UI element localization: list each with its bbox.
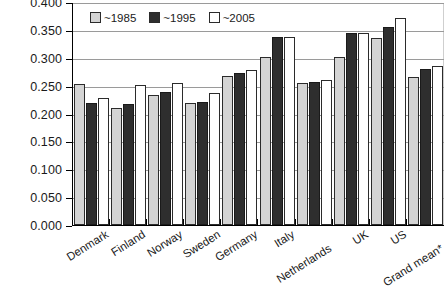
bar bbox=[222, 76, 233, 225]
bar bbox=[260, 57, 271, 225]
bar-group bbox=[370, 3, 407, 225]
bar bbox=[383, 27, 394, 225]
y-axis-tick-label: 0.100 bbox=[30, 164, 62, 176]
bar bbox=[334, 57, 345, 225]
legend-label: ~1985 bbox=[104, 12, 136, 24]
bar bbox=[321, 80, 332, 226]
legend-item: ~1985 bbox=[90, 12, 136, 24]
bar bbox=[272, 37, 283, 225]
bar bbox=[395, 18, 406, 225]
bar bbox=[148, 95, 159, 225]
bar-group bbox=[221, 3, 258, 225]
legend-label: ~1995 bbox=[163, 12, 195, 24]
legend-swatch-icon bbox=[209, 12, 220, 23]
bar-group bbox=[333, 3, 370, 225]
x-axis-label: Norway bbox=[145, 228, 184, 259]
bar bbox=[209, 93, 220, 225]
x-axis-label: Finland bbox=[109, 228, 147, 258]
y-axis-tick-label: 0.200 bbox=[30, 109, 62, 121]
bar-groups bbox=[73, 3, 444, 225]
x-axis-label: UK bbox=[351, 228, 371, 247]
y-axis-tick-label: 0.000 bbox=[30, 220, 62, 232]
y-axis-tick bbox=[66, 226, 72, 227]
bar bbox=[246, 70, 257, 225]
y-axis-tick-label: 0.050 bbox=[30, 192, 62, 204]
legend-label: ~2005 bbox=[223, 12, 255, 24]
y-axis: 0.0000.0500.1000.1500.2000.2500.3000.350… bbox=[0, 0, 72, 232]
y-axis-tick-label: 0.350 bbox=[30, 25, 62, 37]
bar bbox=[358, 33, 369, 225]
bar bbox=[197, 102, 208, 225]
x-axis-labels: DenmarkFinlandNorwaySwedenGermanyItalyNe… bbox=[72, 228, 444, 279]
bar-group bbox=[296, 3, 333, 225]
bar bbox=[420, 69, 431, 225]
y-axis-tick-label: 0.300 bbox=[30, 53, 62, 65]
bar bbox=[135, 85, 146, 225]
bar bbox=[123, 104, 134, 225]
x-axis-label: US bbox=[388, 228, 408, 247]
bar-group bbox=[147, 3, 184, 225]
legend-swatch-icon bbox=[90, 12, 101, 23]
bar bbox=[185, 103, 196, 225]
bar bbox=[98, 98, 109, 225]
x-axis-label: Denmark bbox=[64, 228, 110, 263]
bar bbox=[432, 66, 443, 225]
bar bbox=[346, 33, 357, 225]
y-axis-tick-label: 0.150 bbox=[30, 136, 62, 148]
bar bbox=[371, 38, 382, 225]
bar bbox=[111, 108, 122, 225]
x-axis-label: Grand mean* bbox=[381, 242, 445, 288]
bar bbox=[408, 77, 419, 225]
bar bbox=[86, 103, 97, 225]
legend-swatch-icon bbox=[149, 12, 160, 23]
plot-area bbox=[72, 3, 444, 226]
x-axis-label: Netherlands bbox=[275, 242, 334, 285]
bar bbox=[74, 84, 85, 225]
x-axis-label: Italy bbox=[272, 228, 296, 249]
bar-group bbox=[407, 3, 444, 225]
bar bbox=[284, 37, 295, 225]
legend: ~1985~1995~2005 bbox=[84, 9, 261, 26]
bar-group bbox=[184, 3, 221, 225]
bar bbox=[160, 92, 171, 225]
y-axis-tick-label: 0.250 bbox=[30, 81, 62, 93]
bar bbox=[172, 83, 183, 225]
bar-group bbox=[110, 3, 147, 225]
bar-group bbox=[258, 3, 295, 225]
bar-group bbox=[73, 3, 110, 225]
bar bbox=[297, 83, 308, 225]
legend-item: ~2005 bbox=[209, 12, 255, 24]
bar bbox=[309, 82, 320, 225]
bar bbox=[234, 73, 245, 225]
legend-item: ~1995 bbox=[149, 12, 195, 24]
y-axis-tick-label: 0.400 bbox=[30, 0, 62, 9]
